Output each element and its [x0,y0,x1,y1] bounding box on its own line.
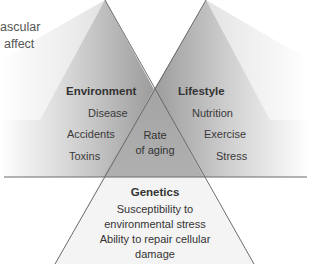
genetics-heading: Genetics [131,186,180,198]
environment-item-accidents: Accidents [67,128,115,140]
fragment-text-line1: ascular [0,20,40,34]
environment-heading: Environment [66,85,136,97]
environment-item-disease: Disease [88,107,128,119]
lifestyle-heading: Lifestyle [178,85,225,97]
lifestyle-item-nutrition: Nutrition [192,107,233,119]
lifestyle-item-exercise: Exercise [204,128,246,140]
center-label-line1: Rate [143,129,166,141]
genetics-line-2: environmental stress [104,218,206,230]
aging-factors-diagram: ascular affect Environment Disease Accid… [0,0,309,264]
environment-item-toxins: Toxins [69,150,101,162]
genetics-line-4: damage [135,248,175,260]
genetics-line-3: Ability to repair cellular [100,233,211,245]
fragment-text-line2: affect [4,37,35,51]
center-label-line2: of aging [135,144,174,156]
lifestyle-item-stress: Stress [216,150,248,162]
genetics-line-1: Susceptibility to [117,203,193,215]
